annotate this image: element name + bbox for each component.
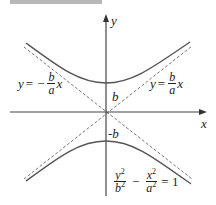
- vertex-label-neg-b: -b: [108, 127, 119, 140]
- hyperbola-equation: y2 b2 − x2 a2 = 1: [113, 169, 180, 194]
- eq-var: x: [56, 76, 62, 92]
- fraction-x2-over-a2: x2 a2: [145, 169, 157, 194]
- minus-sign: −: [132, 174, 139, 190]
- asymptote-right-equation: y = b a x: [150, 71, 183, 96]
- exp: 2: [121, 180, 125, 189]
- exp: 2: [152, 180, 156, 189]
- vertex-label-b: b: [112, 90, 119, 103]
- fraction-b-over-a: b a: [47, 71, 55, 96]
- y-axis-label: y: [111, 14, 117, 27]
- denominator: a: [168, 84, 176, 96]
- y-axis-arrow-icon: [103, 14, 109, 22]
- eq-sign: =: [158, 76, 165, 92]
- denominator: a: [47, 84, 55, 96]
- fraction-b-over-a: b a: [168, 71, 176, 96]
- eq-var: x: [177, 76, 183, 92]
- x-axis-arrow-icon: [199, 109, 207, 115]
- equals-one: = 1: [161, 174, 178, 190]
- exp: 2: [121, 167, 125, 176]
- eq-lhs: y: [18, 76, 24, 92]
- exp: 2: [152, 167, 156, 176]
- asymptote-left-equation: y = − b a x: [18, 71, 62, 96]
- eq-lhs: y: [150, 76, 156, 92]
- x-axis-label: x: [201, 117, 207, 130]
- minus-sign: −: [37, 76, 44, 92]
- denominator: b2: [114, 182, 126, 194]
- hyperbola-plot: [0, 0, 216, 205]
- fraction-y2-over-b2: y2 b2: [114, 169, 126, 194]
- eq-sign: =: [26, 76, 33, 92]
- denominator: a2: [145, 182, 157, 194]
